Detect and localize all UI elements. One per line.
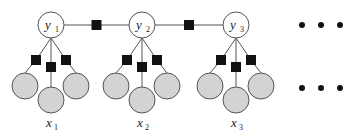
observed-node <box>248 73 274 99</box>
latent-label: y <box>43 17 51 32</box>
unary-factor <box>137 62 147 72</box>
ellipsis-dot <box>318 22 324 28</box>
unary-factor <box>31 55 41 65</box>
observed-node <box>223 87 249 113</box>
observed-node <box>38 87 64 113</box>
observed-node <box>12 73 38 99</box>
unary-factor <box>46 62 56 72</box>
observed-subscript: 3 <box>239 123 243 132</box>
latent-node <box>129 12 155 38</box>
latent-label: y <box>134 17 142 32</box>
unary-factor <box>246 55 256 65</box>
observed-node <box>129 87 155 113</box>
observed-subscript: 1 <box>54 123 58 132</box>
unary-factor <box>61 55 71 65</box>
latent-subscript: 3 <box>240 25 244 34</box>
latent-subscript: 2 <box>146 25 150 34</box>
observed-label: x <box>45 115 52 130</box>
ellipsis-dot <box>299 22 305 28</box>
latent-node <box>223 12 249 38</box>
latent-node <box>38 12 64 38</box>
unary-factor <box>122 55 132 65</box>
observed-subscript: 2 <box>145 123 149 132</box>
unary-factor <box>152 55 162 65</box>
observed-node <box>103 73 129 99</box>
observed-node <box>63 73 89 99</box>
observed-node <box>154 73 180 99</box>
factor-graph-diagram: y1x1y2x2y3x3 <box>0 0 354 140</box>
factor-graph-svg: y1x1y2x2y3x3 <box>0 0 354 140</box>
pairwise-factor <box>92 20 102 30</box>
observed-label: x <box>230 115 237 130</box>
unary-factor <box>231 62 241 72</box>
unary-factor <box>216 55 226 65</box>
observed-node <box>197 73 223 99</box>
ellipsis-dot <box>318 85 324 91</box>
pairwise-factor <box>184 20 194 30</box>
ellipsis-dot <box>337 85 343 91</box>
latent-subscript: 1 <box>55 25 59 34</box>
latent-label: y <box>228 17 236 32</box>
observed-label: x <box>136 115 143 130</box>
ellipsis-dot <box>337 22 343 28</box>
ellipsis-dot <box>299 85 305 91</box>
